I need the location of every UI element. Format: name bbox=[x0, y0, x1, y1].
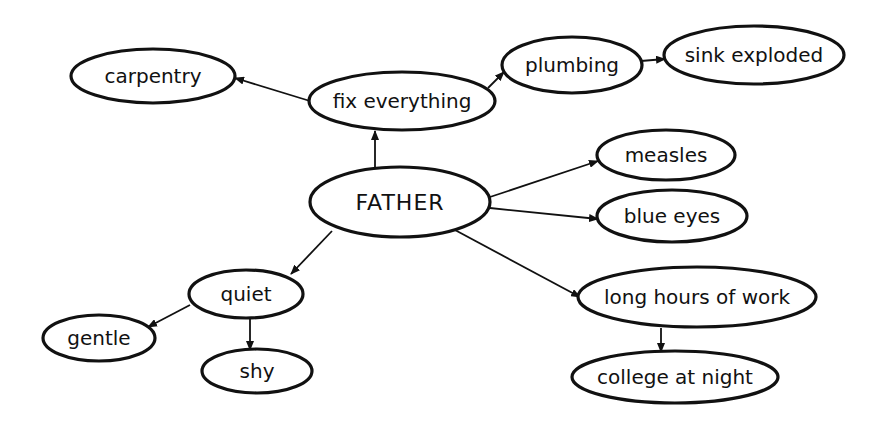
node-label: shy bbox=[240, 359, 275, 383]
edge-fix-everything-to-carpentry bbox=[235, 78, 310, 101]
node-label: FATHER bbox=[355, 190, 444, 215]
edge-father-to-blue-eyes bbox=[490, 208, 598, 219]
edge-father-to-long-hours bbox=[455, 230, 580, 297]
edge-father-to-measles bbox=[490, 161, 598, 197]
node-label: sink exploded bbox=[685, 43, 824, 67]
node-label: college at night bbox=[597, 365, 753, 389]
node-college: college at night bbox=[572, 351, 778, 403]
node-label: plumbing bbox=[525, 53, 619, 77]
node-blue-eyes: blue eyes bbox=[597, 190, 747, 242]
node-label: measles bbox=[625, 143, 708, 167]
edge-quiet-to-gentle bbox=[148, 305, 190, 327]
node-label: gentle bbox=[67, 326, 130, 350]
node-measles: measles bbox=[597, 130, 735, 180]
node-quiet: quiet bbox=[189, 270, 303, 318]
edge-fix-everything-to-plumbing bbox=[488, 72, 504, 88]
node-gentle: gentle bbox=[43, 315, 155, 361]
edge-plumbing-to-sink-exploded bbox=[641, 59, 665, 61]
nodes-layer: FATHERfix everythingcarpentryplumbingsin… bbox=[43, 26, 844, 403]
node-sink-exploded: sink exploded bbox=[664, 26, 844, 84]
node-father: FATHER bbox=[310, 167, 490, 237]
node-carpentry: carpentry bbox=[71, 49, 235, 103]
node-label: carpentry bbox=[104, 64, 201, 88]
node-plumbing: plumbing bbox=[502, 37, 642, 93]
node-fix-everything: fix everything bbox=[309, 72, 495, 130]
edge-father-to-quiet bbox=[291, 231, 332, 274]
concept-map-canvas: FATHERfix everythingcarpentryplumbingsin… bbox=[0, 0, 884, 429]
node-label: fix everything bbox=[333, 89, 472, 113]
node-shy: shy bbox=[202, 349, 312, 393]
node-label: quiet bbox=[220, 282, 271, 306]
node-long-hours: long hours of work bbox=[578, 267, 816, 327]
node-label: long hours of work bbox=[604, 285, 791, 309]
concept-map: FATHERfix everythingcarpentryplumbingsin… bbox=[0, 0, 884, 429]
node-label: blue eyes bbox=[624, 204, 720, 228]
